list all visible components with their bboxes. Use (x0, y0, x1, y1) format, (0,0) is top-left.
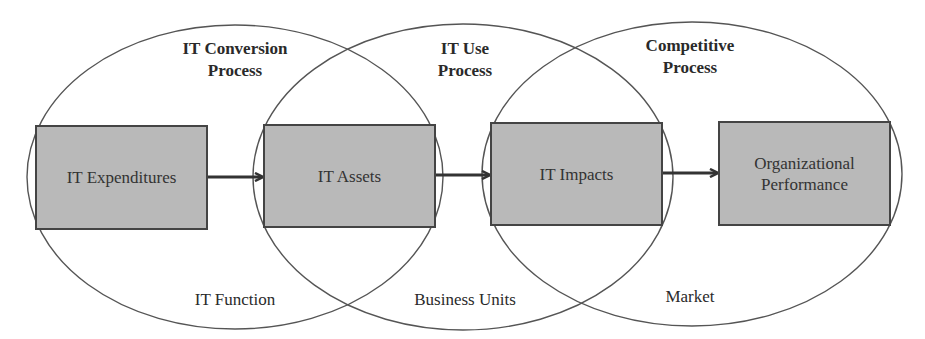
context-it-function: IT Function (160, 289, 310, 311)
process-title-line2: Process (150, 60, 320, 82)
process-title-line1: IT Conversion (150, 38, 320, 60)
box-label-line2: Performance (754, 174, 855, 195)
process-title-line1: IT Use (400, 38, 530, 60)
box-it-assets: IT Assets (263, 124, 436, 228)
process-title-line2: Process (400, 60, 530, 82)
context-market: Market (640, 286, 740, 308)
box-it-expenditures: IT Expenditures (35, 125, 208, 230)
process-title-line1: Competitive (615, 35, 765, 57)
process-title-it-conversion: IT Conversion Process (150, 38, 320, 82)
box-label: IT Expenditures (67, 167, 177, 188)
context-business-units: Business Units (385, 289, 545, 311)
box-label: IT Impacts (540, 164, 614, 185)
process-title-it-use: IT Use Process (400, 38, 530, 82)
box-label-line1: Organizational (754, 153, 855, 174)
process-title-line2: Process (615, 57, 765, 79)
process-title-competitive: Competitive Process (615, 35, 765, 79)
box-label: IT Assets (318, 166, 381, 187)
box-it-impacts: IT Impacts (490, 122, 663, 226)
box-organizational-performance: Organizational Performance (718, 121, 891, 226)
